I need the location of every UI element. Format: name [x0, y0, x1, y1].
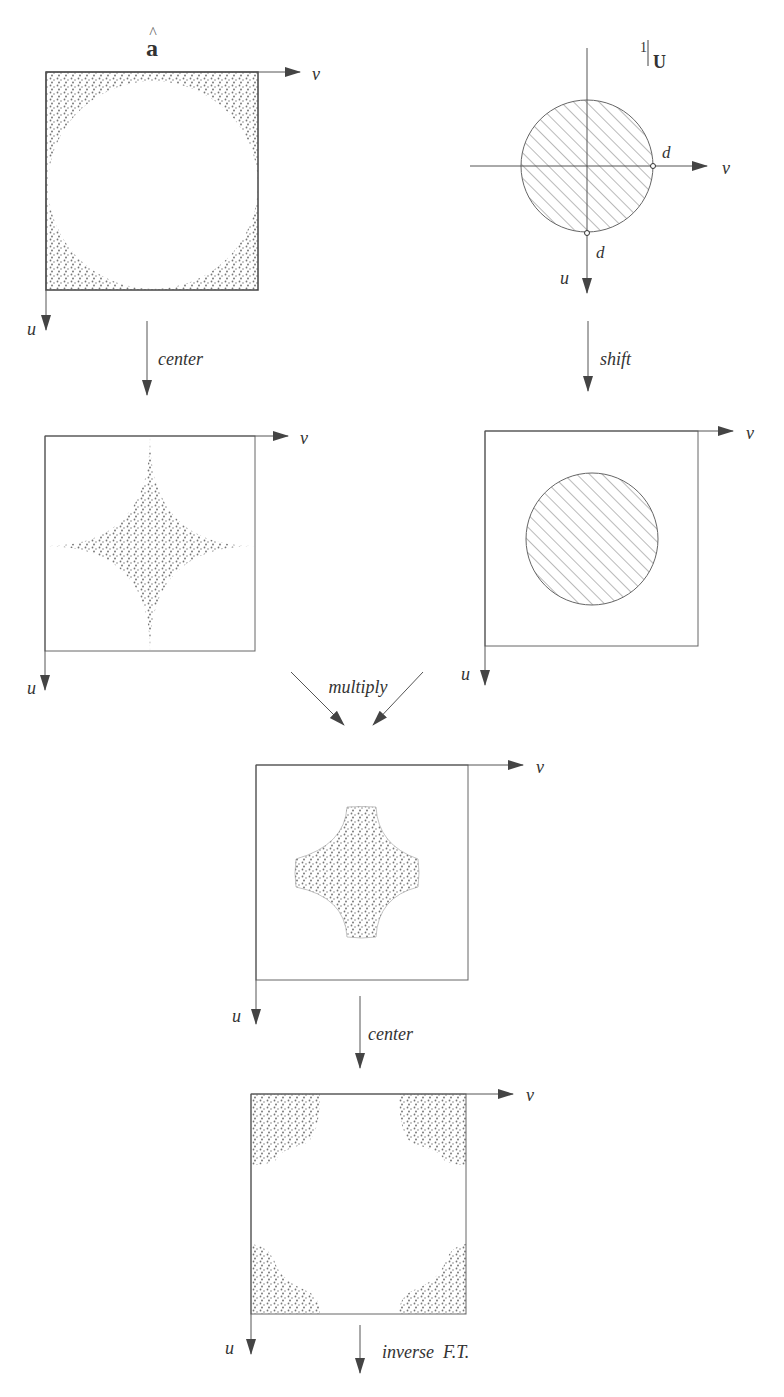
u-axis-label: u — [461, 664, 470, 684]
corner-patch-tr — [399, 1094, 466, 1165]
step-multiply: multiply — [291, 672, 423, 725]
v-axis-label: v — [722, 158, 730, 178]
panel-shifted-filter: v u — [461, 423, 754, 685]
u-axis-label: u — [232, 1006, 241, 1026]
corner-patch-tl — [251, 1094, 320, 1165]
corner-patch-br — [399, 1244, 466, 1314]
step-label-inverse-ft: inverse F.T. — [382, 1342, 469, 1362]
step-center-1: center — [147, 321, 204, 395]
v-axis-label: v — [746, 423, 754, 443]
v-axis-label: v — [536, 757, 544, 777]
filter-label-one: 1 — [640, 40, 647, 55]
filter-disc — [526, 473, 658, 605]
radius-point-u — [585, 231, 590, 236]
v-axis-label: v — [312, 64, 320, 84]
radius-point-v — [651, 164, 656, 169]
panel-a-hat: a ^ v u — [27, 24, 320, 339]
panel-product: v u — [232, 757, 544, 1026]
radius-label-v: d — [662, 143, 671, 162]
filter-label-U: U — [653, 52, 666, 72]
product-shape — [295, 807, 419, 939]
u-axis-label: u — [225, 1338, 234, 1358]
u-axis-label: u — [27, 319, 36, 339]
step-inverse-ft: inverse F.T. — [360, 1325, 469, 1373]
step-shift: shift — [588, 321, 632, 391]
v-axis-label: v — [526, 1085, 534, 1105]
step-center-2: center — [360, 996, 414, 1068]
step-label-shift: shift — [600, 349, 632, 369]
corner-patch-bl — [251, 1244, 320, 1314]
v-axis-label: v — [300, 428, 308, 448]
u-axis-label: u — [27, 678, 36, 698]
panel-filter-U: 1 U d d v u — [470, 40, 730, 293]
step-label-center-2: center — [368, 1024, 414, 1044]
hat-accent: ^ — [149, 24, 157, 41]
radius-label-u: d — [596, 243, 605, 262]
star-shape — [45, 436, 255, 651]
step-label-multiply: multiply — [329, 677, 388, 697]
panel-recentered: v u — [225, 1085, 534, 1358]
panel-centered-spectrum: v u — [27, 428, 308, 698]
step-label-center: center — [158, 349, 204, 369]
filtering-diagram: a ^ v u 1 U d d v u center shift — [0, 0, 784, 1397]
u-axis-label: u — [560, 268, 569, 288]
